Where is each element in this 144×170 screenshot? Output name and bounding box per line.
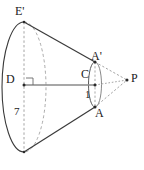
- label-E-prime: E': [15, 5, 25, 17]
- label-A: A: [95, 107, 104, 119]
- label-A-prime: A': [91, 50, 102, 62]
- label-P: P: [131, 72, 138, 84]
- label-D: D: [6, 73, 15, 85]
- point-E: [23, 151, 26, 154]
- cone-diagram-svg: [0, 0, 144, 170]
- label-measurement-one: 1: [85, 89, 91, 100]
- point-E-prime: [23, 21, 26, 24]
- slant-line-Eprime-Aprime: [24, 22, 95, 62]
- large-circle-front-arc: [2, 22, 24, 152]
- right-angle-mark-at-D: [26, 78, 33, 85]
- point-P: [126, 79, 129, 82]
- slant-line-E-A: [24, 107, 95, 152]
- geometry-figure: E' A' D C P A 1 7: [0, 0, 144, 170]
- label-measurement-seven: 7: [14, 106, 20, 117]
- point-C: [94, 84, 97, 87]
- label-C: C: [81, 68, 89, 80]
- large-circle-back-arc: [24, 22, 46, 152]
- point-D: [23, 84, 26, 87]
